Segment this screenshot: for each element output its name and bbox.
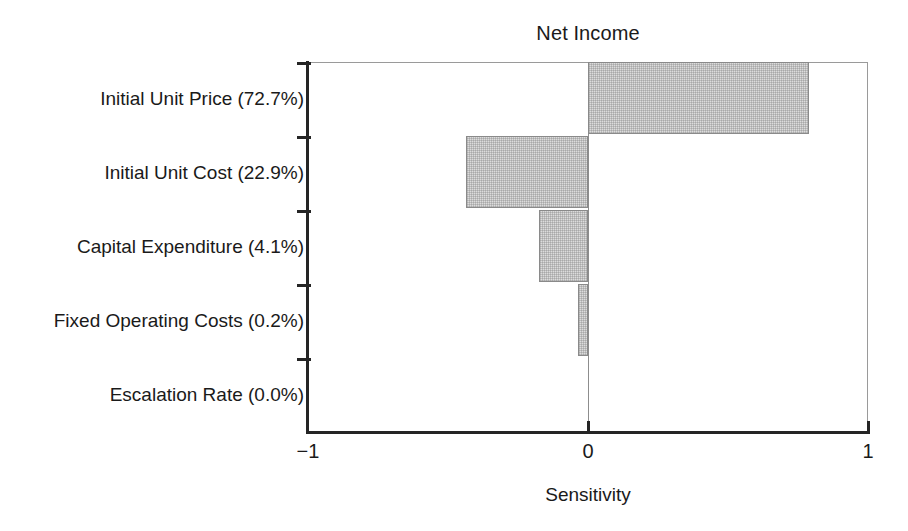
y-axis-tick (297, 358, 311, 361)
x-axis-tick-label-minus-one: −1 (297, 440, 320, 463)
y-axis-tick (297, 136, 311, 139)
x-axis-title: Sensitivity (545, 484, 631, 506)
x-axis-tick (867, 421, 870, 434)
category-label-escalation-rate: Escalation Rate (0.0%) (110, 384, 304, 406)
category-label-initial-unit-cost: Initial Unit Cost (22.9%) (104, 162, 304, 184)
y-axis-spine (306, 61, 309, 434)
x-axis-tick (587, 421, 590, 434)
y-axis-tick (297, 210, 311, 213)
category-label-fixed-operating-costs: Fixed Operating Costs (0.2%) (54, 310, 304, 332)
x-axis-tick-label-one: 1 (862, 440, 873, 463)
chart-title-text: Net Income (536, 22, 639, 44)
y-axis-tick (297, 62, 311, 65)
chart-title: Net Income (0, 22, 908, 45)
category-label-initial-unit-price: Initial Unit Price (72.7%) (100, 88, 304, 110)
x-axis-tick (306, 421, 309, 434)
bar-initial-unit-cost (466, 136, 588, 208)
category-label-capital-expenditure: Capital Expenditure (4.1%) (77, 236, 304, 258)
y-axis-tick (297, 284, 311, 287)
x-axis-tick-label-zero: 0 (582, 440, 593, 463)
bar-fixed-operating-costs (578, 284, 588, 356)
tornado-chart-figure: Net Income Initial Unit Price (72.7%) In… (0, 0, 908, 531)
bar-capital-expenditure (539, 210, 588, 282)
bar-initial-unit-price (588, 62, 809, 134)
